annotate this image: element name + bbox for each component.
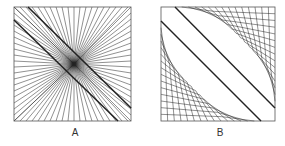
panel-a-label: A [72,127,79,138]
panel-b [161,7,275,121]
diagram-canvas [0,0,285,146]
panel-b-label: B [217,127,224,138]
panel-a [14,7,131,121]
